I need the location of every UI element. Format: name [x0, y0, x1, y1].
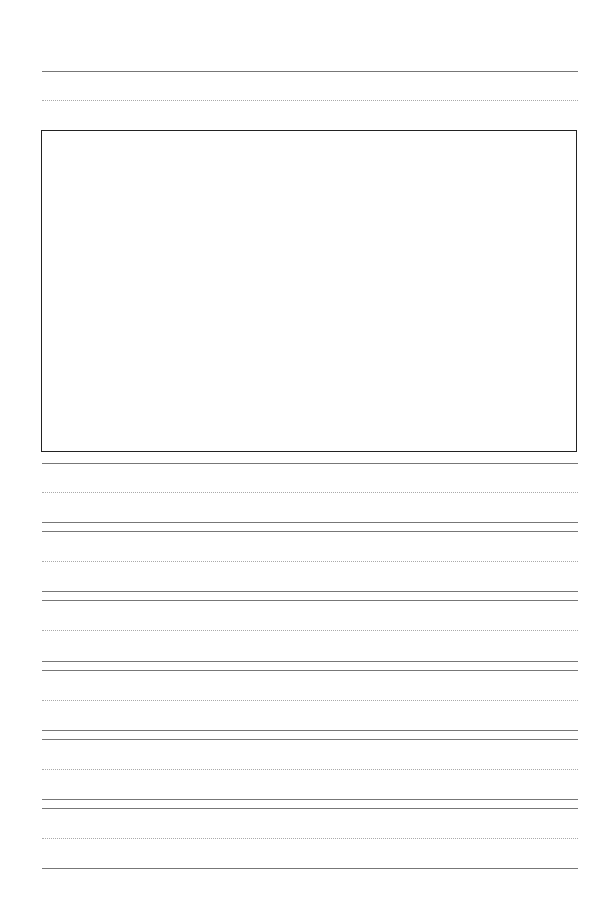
top-line — [42, 739, 578, 740]
top-line — [42, 808, 578, 809]
baseline — [42, 522, 578, 523]
baseline — [42, 868, 578, 869]
midline-dotted — [42, 700, 578, 701]
drawing-box[interactable] — [41, 130, 577, 452]
baseline — [42, 661, 578, 662]
baseline — [42, 799, 578, 800]
top-line — [42, 531, 578, 532]
top-line — [42, 600, 578, 601]
midline-dotted — [42, 100, 578, 101]
baseline — [42, 730, 578, 731]
midline-dotted — [42, 561, 578, 562]
baseline — [42, 591, 578, 592]
midline-dotted — [42, 492, 578, 493]
midline-dotted — [42, 838, 578, 839]
midline-dotted — [42, 769, 578, 770]
top-line — [42, 71, 578, 72]
baseline — [42, 463, 578, 464]
top-line — [42, 670, 578, 671]
midline-dotted — [42, 630, 578, 631]
